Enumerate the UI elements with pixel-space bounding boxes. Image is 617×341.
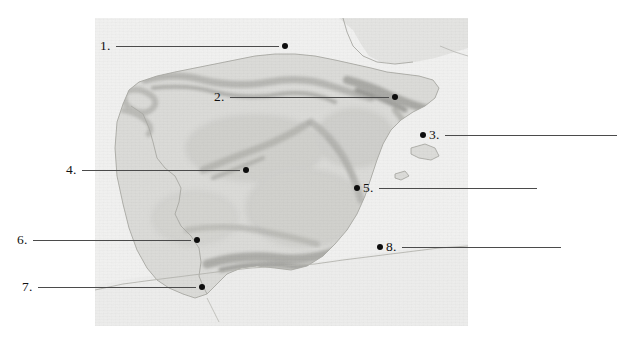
callout-7[interactable]: 7. <box>22 278 205 296</box>
callout-4-marker-dot[interactable] <box>243 167 249 173</box>
callout-6-marker-dot[interactable] <box>194 237 200 243</box>
callout-6-number: 6. <box>17 233 28 247</box>
callout-1-number: 1. <box>100 39 111 53</box>
callout-8-number: 8. <box>386 240 397 254</box>
callout-1[interactable]: 1. <box>100 37 288 55</box>
callout-7-leader-line <box>38 287 196 288</box>
callout-1-marker-dot[interactable] <box>282 43 288 49</box>
callout-1-leader-line <box>116 46 279 47</box>
callout-2-number: 2. <box>214 90 225 104</box>
screenshot-canvas: 1. 2. 3. 4. 5. 6. <box>0 0 617 341</box>
callout-5[interactable]: 5. <box>354 179 537 197</box>
callout-8-leader-line <box>402 247 561 248</box>
callout-5-number: 5. <box>363 181 374 195</box>
callout-3-marker-dot[interactable] <box>420 132 426 138</box>
callout-7-marker-dot[interactable] <box>199 284 205 290</box>
callout-4-leader-line <box>82 170 240 171</box>
callout-8-marker-dot[interactable] <box>377 244 383 250</box>
callout-6[interactable]: 6. <box>17 231 200 249</box>
callout-2-marker-dot[interactable] <box>392 94 398 100</box>
callout-2[interactable]: 2. <box>214 88 398 106</box>
callout-6-leader-line <box>33 240 191 241</box>
callout-5-marker-dot[interactable] <box>354 185 360 191</box>
callout-7-number: 7. <box>22 280 33 294</box>
callout-8[interactable]: 8. <box>377 238 561 256</box>
callout-5-leader-line <box>379 188 537 189</box>
callout-2-leader-line <box>230 97 389 98</box>
callout-3-number: 3. <box>429 128 440 142</box>
callout-3-leader-line <box>445 135 617 136</box>
callout-4[interactable]: 4. <box>66 161 249 179</box>
callout-3[interactable]: 3. <box>420 126 617 144</box>
callout-4-number: 4. <box>66 163 77 177</box>
